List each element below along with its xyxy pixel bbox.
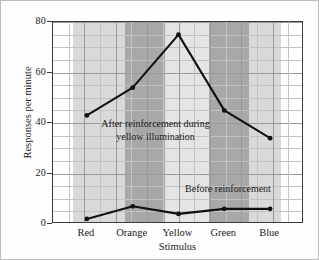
annotation-after-line1: After reinforcement during [63,117,248,130]
y-tick-label-80: 80 [35,15,46,26]
y-tick-label-20: 20 [35,167,46,178]
annotation-before-line1: Before reinforcement [153,182,303,195]
data-point [222,108,227,113]
data-point [130,85,135,90]
annotation-before-reinforcement: Before reinforcement [153,182,303,195]
data-point [176,212,181,217]
y-axis-label: Responses per minute [22,28,33,198]
data-point [176,32,181,37]
y-tick-label-60: 60 [35,66,46,77]
x-axis-label: Stimulus [52,241,303,252]
data-point [268,136,273,141]
annotation-after-line2: yellow illumination [63,130,248,143]
data-point [268,206,273,211]
y-tick-label-40: 40 [35,116,46,127]
y-tick-label-0: 0 [41,217,46,228]
plot-area: After reinforcement during yellow illumi… [52,21,303,223]
data-point [84,217,89,222]
figure-container: Responses per minute 806040200 After rei… [0,0,319,260]
x-tick-label-blue: Blue [239,227,299,238]
annotation-after-reinforcement: After reinforcement during yellow illumi… [63,117,248,143]
y-tick-mark-0 [47,223,52,224]
data-point [130,204,135,209]
data-point [222,206,227,211]
